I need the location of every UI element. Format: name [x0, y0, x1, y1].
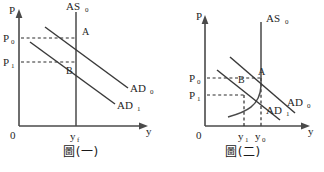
svg-text:1: 1 — [11, 62, 15, 70]
panel-1-price-tick-p0: P 0 — [3, 32, 15, 46]
svg-text:0: 0 — [262, 136, 266, 144]
panel-2-ad0-label: AD 0 — [287, 96, 311, 110]
svg-text:1: 1 — [245, 136, 249, 144]
panel-1-price-tick-p1: P 1 — [3, 56, 15, 70]
svg-text:y: y — [70, 130, 76, 142]
svg-text:y: y — [238, 130, 244, 142]
svg-text:AS: AS — [266, 12, 280, 24]
panel-2-point-b-label: B — [238, 74, 245, 85]
panel-2-y-axis-arrow — [202, 15, 209, 24]
svg-text:0: 0 — [307, 102, 311, 110]
svg-text:AD: AD — [266, 104, 282, 116]
panel-1-y-axis-arrow — [16, 9, 23, 18]
panel-2-y-axis-label: P — [196, 10, 202, 22]
figure-panel-2: P y 0 AS 0 AD 0 AD — [162, 0, 324, 172]
svg-text:AD: AD — [130, 82, 146, 94]
svg-text:P: P — [189, 89, 195, 101]
svg-text:P: P — [3, 32, 9, 44]
svg-text:AD: AD — [287, 96, 303, 108]
svg-text:AD: AD — [117, 99, 133, 111]
svg-text:1: 1 — [197, 95, 201, 103]
svg-text:P: P — [189, 72, 195, 84]
panel-1-ad0-label: AD 0 — [130, 82, 154, 96]
panel-1-output-tick-yf: y f — [70, 130, 80, 144]
panel-1-plot: P y 0 AS 0 AD 0 AD 1 — [0, 0, 162, 146]
svg-text:0: 0 — [85, 6, 89, 14]
panel-1-y-axis-label: P — [9, 4, 15, 16]
svg-text:AS: AS — [66, 0, 80, 12]
svg-text:0: 0 — [285, 18, 289, 26]
panel-1-point-b-label: B — [66, 65, 73, 76]
panel-2-x-axis-label: y — [308, 125, 314, 137]
figure-panel-1: P y 0 AS 0 AD 0 AD 1 — [0, 0, 162, 172]
panel-1-point-a-label: A — [82, 26, 90, 37]
panel-2-output-tick-y0: y 0 — [255, 130, 266, 144]
panel-2-caption: 圖(二) — [162, 146, 324, 158]
panel-2-plot: P y 0 AS 0 AD 0 AD — [162, 0, 324, 146]
panel-2-price-tick-p0: P 0 — [189, 72, 201, 86]
panel-2-point-a-label: A — [258, 66, 266, 77]
svg-text:f: f — [77, 136, 80, 144]
panel-1-x-axis-label: y — [146, 125, 152, 137]
svg-text:0: 0 — [11, 38, 15, 46]
panel-1-origin-label: 0 — [10, 129, 16, 141]
svg-text:1: 1 — [137, 105, 141, 113]
panel-2-origin-label: 0 — [196, 129, 202, 141]
svg-text:0: 0 — [150, 88, 154, 96]
panel-2-output-tick-y1: y 1 — [238, 130, 249, 144]
svg-text:P: P — [3, 56, 9, 68]
svg-text:y: y — [255, 130, 261, 142]
panel-1-as0-label: AS 0 — [66, 0, 89, 14]
panel-2-as0-label: AS 0 — [266, 12, 289, 26]
svg-text:0: 0 — [197, 78, 201, 86]
panel-1-caption: 圖(一) — [0, 146, 162, 158]
economics-figure-pair: P y 0 AS 0 AD 0 AD 1 — [0, 0, 324, 172]
svg-text:1: 1 — [286, 110, 290, 118]
panel-1-ad1-label: AD 1 — [117, 99, 141, 113]
panel-2-price-tick-p1: P 1 — [189, 89, 201, 103]
